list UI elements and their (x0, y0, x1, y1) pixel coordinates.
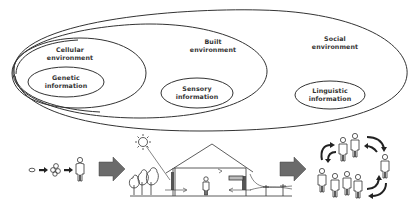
person-icon (76, 157, 84, 181)
built-environment-label: Built environment (183, 38, 243, 54)
big-arrow-icon (99, 157, 125, 181)
person-icon (381, 154, 389, 178)
development-panel (29, 157, 84, 181)
genetic-information-label: Genetic information (36, 74, 96, 90)
curved-arrow-icon (328, 152, 336, 160)
person-icon (354, 174, 362, 198)
social-group-panel (318, 133, 389, 198)
sensory-information-label: Sensory information (167, 85, 227, 101)
person-icon (339, 137, 347, 161)
cell-icon (29, 168, 35, 172)
big-arrow-icon (280, 157, 306, 181)
social-environment-label: Social environment (305, 35, 365, 51)
cell-cluster-icon (51, 164, 61, 177)
curved-arrow-icon (321, 145, 331, 160)
person-icon (203, 177, 209, 195)
cellular-environment-label: Cellular environment (40, 46, 100, 62)
small-arrow-icon (64, 167, 73, 173)
person-icon (318, 168, 326, 192)
curved-arrow-icon (367, 179, 379, 189)
person-icon (343, 171, 351, 195)
environment-diagram: Social environment Built environment Cel… (0, 0, 415, 205)
social-environment-ellipse (14, 10, 407, 131)
small-arrow-icon (39, 167, 48, 173)
house-roof (166, 144, 253, 173)
linguistic-information-label: Linguistic information (300, 87, 360, 103)
person-icon (351, 133, 359, 157)
utility-poles-icon (263, 184, 286, 196)
built-house-panel (129, 134, 292, 196)
sun-icon (135, 134, 151, 150)
curved-arrow-icon (372, 183, 386, 196)
trees-icon (129, 168, 158, 195)
person-icon (331, 173, 339, 197)
